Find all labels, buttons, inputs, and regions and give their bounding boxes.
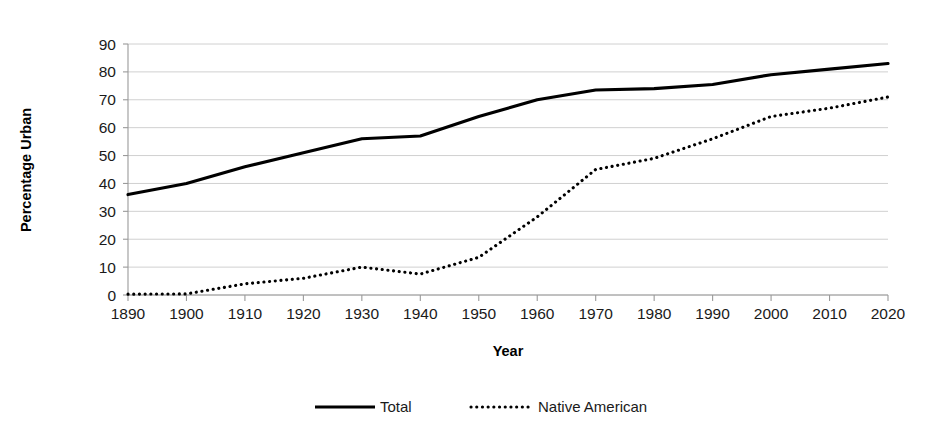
y-tick-label: 80 bbox=[99, 63, 117, 80]
x-tick-label: 1920 bbox=[286, 305, 321, 322]
x-axis-title: Year bbox=[493, 343, 524, 359]
x-tick-label: 1960 bbox=[520, 305, 555, 322]
line-chart: 0102030405060708090 18901900191019201930… bbox=[0, 0, 951, 423]
x-tick-label: 1910 bbox=[228, 305, 263, 322]
y-tick-labels-group: 0102030405060708090 bbox=[99, 36, 117, 304]
x-tick-label: 1930 bbox=[345, 305, 380, 322]
x-tick-label: 1950 bbox=[462, 305, 497, 322]
x-tick-label: 1890 bbox=[111, 305, 146, 322]
x-tick-label: 2010 bbox=[812, 305, 847, 322]
legend-label-native-american: Native American bbox=[538, 398, 647, 415]
series-line-total bbox=[128, 64, 888, 195]
series-line-native-american bbox=[128, 97, 888, 294]
chart-canvas: 0102030405060708090 18901900191019201930… bbox=[0, 0, 951, 423]
x-tick-label: 2020 bbox=[871, 305, 906, 322]
y-tick-label: 90 bbox=[99, 36, 117, 53]
y-tick-label: 20 bbox=[99, 231, 117, 248]
y-tick-label: 50 bbox=[99, 147, 117, 164]
x-tick-label: 1900 bbox=[169, 305, 204, 322]
y-tick-label: 30 bbox=[99, 203, 117, 220]
y-tick-label: 40 bbox=[99, 175, 117, 192]
legend-label-total: Total bbox=[380, 398, 412, 415]
legend: Total Native American bbox=[315, 398, 647, 415]
y-tick-label: 70 bbox=[99, 91, 117, 108]
y-tick-marks-group bbox=[123, 44, 128, 295]
x-tick-label: 2000 bbox=[754, 305, 789, 322]
x-tick-labels-group: 1890190019101920193019401950196019701980… bbox=[111, 305, 906, 322]
y-tick-label: 0 bbox=[107, 287, 116, 304]
x-tick-label: 1970 bbox=[578, 305, 613, 322]
x-tick-label: 1940 bbox=[403, 305, 438, 322]
x-tick-label: 1990 bbox=[695, 305, 730, 322]
gridlines-group bbox=[128, 44, 888, 295]
x-tick-label: 1980 bbox=[637, 305, 672, 322]
y-axis-title: Percentage Urban bbox=[18, 108, 34, 232]
y-tick-label: 60 bbox=[99, 119, 117, 136]
y-tick-label: 10 bbox=[99, 259, 117, 276]
x-tick-marks-group bbox=[128, 295, 888, 301]
